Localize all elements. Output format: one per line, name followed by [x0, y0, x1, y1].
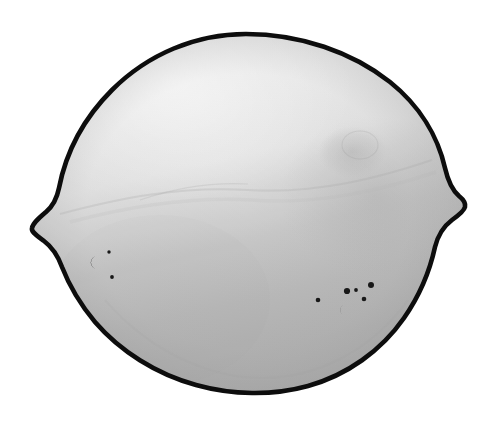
lemon-photograph — [0, 0, 495, 422]
image-canvas — [0, 0, 495, 422]
